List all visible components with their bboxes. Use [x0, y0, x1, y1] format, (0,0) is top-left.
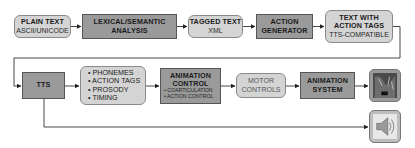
face-render-icon: [373, 73, 397, 98]
box-title-line2: GENERATOR: [261, 27, 307, 35]
box-title-line2: SYSTEM: [312, 86, 342, 94]
tts-box: TTS: [22, 72, 65, 99]
box-subtitle: ASCII/UNICODE: [16, 27, 69, 35]
box-subtitle: XML: [208, 27, 222, 35]
box-title: MOTOR: [248, 77, 274, 85]
action-generator-box: ACTION GENERATOR: [256, 14, 313, 39]
animation-control-box: ANIMATION CONTROL • COARTICULATION • ACT…: [160, 68, 221, 104]
plain-text-box: PLAIN TEXT ASCII/UNICODE: [14, 15, 71, 38]
box-subtitle: TTS-COMPATIBLE: [329, 31, 389, 39]
tagged-text-box: TAGGED TEXT XML: [188, 15, 243, 38]
bullet-item: • ACTION CONTROL: [161, 94, 213, 100]
text-with-action-tags-box: TEXT WITH ACTION TAGS TTS-COMPATIBLE: [325, 10, 393, 43]
list-item: • TIMING: [88, 94, 118, 102]
box-title-line2: CONTROLS: [242, 86, 281, 94]
box-title: TAGGED TEXT: [190, 18, 242, 26]
box-title: PLAIN TEXT: [21, 18, 64, 26]
box-title-line2: ANALYSIS: [111, 27, 147, 35]
box-title-line2: ACTION TAGS: [334, 22, 384, 30]
animation-system-box: ANIMATION SYSTEM: [300, 72, 355, 99]
speaker-icon: [373, 114, 397, 139]
animated-face-image-icon: [369, 69, 401, 102]
motor-controls-box: MOTOR CONTROLS: [236, 73, 286, 98]
speaker-audio-icon: [369, 110, 401, 143]
box-title: TTS: [37, 81, 51, 89]
tts-outputs-box: • PHONEMES • ACTION TAGS • PROSODY • TIM…: [80, 66, 146, 105]
lexical-semantic-analysis-box: LEXICAL/SEMANTIC ANALYSIS: [82, 14, 177, 39]
